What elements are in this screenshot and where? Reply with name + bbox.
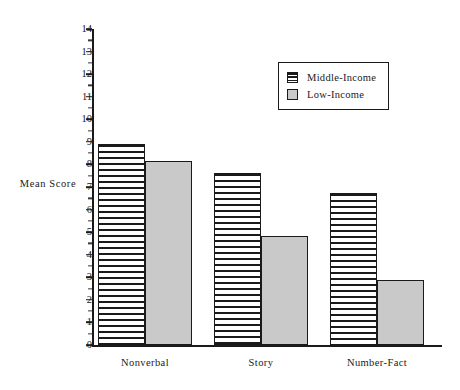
y-tick-mark [86,164,92,166]
y-tick-mark [86,299,92,301]
bar-number-fact-low-income [377,280,424,345]
y-tick-mark [86,322,92,324]
y-tick-mark-minor [88,152,92,153]
y-tick-mark-minor [88,243,92,244]
y-tick-mark [86,186,92,188]
y-tick-mark-minor [88,130,92,131]
bar-story-low-income [261,236,308,345]
y-tick-mark [86,73,92,75]
legend: Middle-Income Low-Income [278,62,389,110]
y-tick-mark [86,141,92,143]
y-tick-mark [86,28,92,30]
y-tick-mark [86,276,92,278]
y-tick-mark-minor [88,40,92,41]
y-tick-mark [86,118,92,120]
bar-nonverbal-low-income [145,161,192,345]
y-tick-mark-minor [88,107,92,108]
y-tick-mark-minor [88,288,92,289]
y-tick-mark [86,51,92,53]
y-tick-mark-minor [88,265,92,266]
y-tick-mark-minor [88,333,92,334]
y-tick-mark-minor [88,220,92,221]
y-tick-mark-minor [88,175,92,176]
bar-chart: Mean Score 01234567891011121314 Nonverba… [0,0,460,390]
y-tick-mark [86,254,92,256]
hatched-swatch-icon [287,72,298,83]
x-axis-label: Nonverbal [121,357,169,368]
gray-swatch-icon [287,89,298,100]
bar-number-fact-middle-income [330,193,377,345]
legend-item-middle-income: Middle-Income [287,69,376,86]
y-tick-mark-minor [88,310,92,311]
y-tick-mark-minor [88,85,92,86]
y-tick-mark-minor [88,198,92,199]
x-axis-line [92,345,442,347]
legend-item-label: Middle-Income [307,72,376,83]
y-tick-mark-minor [88,62,92,63]
y-tick-mark [86,96,92,98]
legend-item-low-income: Low-Income [287,86,376,103]
bar-nonverbal-middle-income [98,144,145,345]
x-axis-label: Number-Fact [347,357,407,368]
legend-item-label: Low-Income [307,89,364,100]
y-tick-mark [86,209,92,211]
y-tick-mark [86,231,92,233]
x-axis-label: Story [249,357,274,368]
bar-story-middle-income [214,173,261,345]
